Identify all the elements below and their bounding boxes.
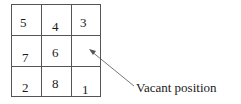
vacant-position-label: Vacant position <box>136 80 217 96</box>
